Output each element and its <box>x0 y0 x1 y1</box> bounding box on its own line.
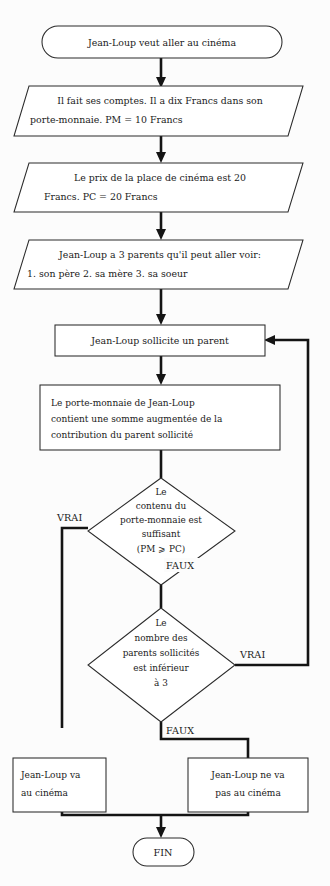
node-decision-1-line3: porte-monnaie est <box>120 515 202 525</box>
flowchart-svg: Jean-Loup veut aller au cinéma Il fait s… <box>0 0 330 886</box>
connector-io3-to-process1 <box>156 289 166 325</box>
connector-io1-to-io2 <box>156 136 166 163</box>
edge-label-vrai-1: VRAI <box>56 512 82 523</box>
node-io-3[interactable]: Jean-Loup a 3 parents qu'il peut aller v… <box>14 240 303 289</box>
connector-process1-to-process2 <box>156 356 166 385</box>
connector-decision1-true-to-outcome-yes <box>62 528 88 728</box>
edge-label-faux-1: FAUX <box>166 560 194 571</box>
edge-label-decision1-true: VRAI <box>55 510 91 524</box>
node-decision-2-line5: à 3 <box>154 678 168 688</box>
edge-label-decision1-false: FAUX <box>164 558 202 572</box>
node-decision-1[interactable]: Le contenu du porte-monnaie est suffisan… <box>88 478 235 585</box>
node-io-3-line2: 1. son père 2. sa mère 3. sa soeur <box>27 268 188 279</box>
connector-io2-to-io3 <box>156 212 166 240</box>
node-process-2[interactable]: Le porte-monnaie de Jean-Loup contient u… <box>40 385 280 450</box>
node-process-2-line3: contribution du parent sollicité <box>51 430 193 440</box>
node-process-2-line2: contient une somme augmentée de la <box>51 414 223 424</box>
node-io-2[interactable]: Le prix de la place de cinéma est 20 Fra… <box>14 163 303 212</box>
node-decision-1-line2: contenu du <box>136 501 187 511</box>
edge-label-decision2-false: FAUX <box>164 723 202 737</box>
node-io-2-line1: Le prix de la place de cinéma est 20 <box>74 172 246 183</box>
node-outcome-yes-line2: au cinéma <box>21 788 69 798</box>
edge-label-decision2-true: VRAI <box>238 647 276 661</box>
node-io-2-line2: Francs. PC = 20 Francs <box>44 191 158 202</box>
node-end-label: FIN <box>154 847 173 858</box>
node-io-1[interactable]: Il fait ses comptes. Il a dix Francs dan… <box>14 86 303 136</box>
node-start[interactable]: Jean-Loup veut aller au cinéma <box>42 26 282 58</box>
node-outcome-yes-line1: Jean-Loup va <box>20 770 81 780</box>
node-process-2-line1: Le porte-monnaie de Jean-Loup <box>51 398 195 408</box>
node-decision-2-line2: nombre des <box>135 633 188 643</box>
node-outcome-no[interactable]: Jean-Loup ne va pas au cinéma <box>188 758 308 812</box>
node-decision-2-line4: est inférieur <box>133 663 189 673</box>
node-decision-2-line3: parents sollicités <box>123 648 200 658</box>
node-decision-2[interactable]: Le nombre des parents sollicités est inf… <box>88 608 235 722</box>
node-process-1[interactable]: Jean-Loup sollicite un parent <box>55 325 265 356</box>
node-process-1-label: Jean-Loup sollicite un parent <box>90 335 229 346</box>
node-decision-1-line5: (PM ⩾ PC) <box>137 544 185 554</box>
node-decision-1-line1: Le <box>155 487 166 497</box>
node-decision-2-line1: Le <box>155 618 166 628</box>
node-start-label: Jean-Loup veut aller au cinéma <box>87 37 237 48</box>
connector-merge-to-end <box>156 815 166 838</box>
node-end[interactable]: FIN <box>133 838 194 866</box>
node-outcome-yes[interactable]: Jean-Loup va au cinéma <box>13 758 106 812</box>
node-decision-1-line4: suffisant <box>142 529 181 539</box>
connector-start-to-io1 <box>156 58 166 88</box>
node-outcome-no-line2: pas au cinéma <box>215 788 281 798</box>
edge-label-faux-2: FAUX <box>166 725 194 736</box>
node-outcome-no-line1: Jean-Loup ne va <box>210 770 285 780</box>
edge-label-vrai-2: VRAI <box>239 649 265 660</box>
flowchart-canvas: Jean-Loup veut aller au cinéma Il fait s… <box>0 0 330 886</box>
node-io-3-line1: Jean-Loup a 3 parents qu'il peut aller v… <box>58 249 261 260</box>
node-io-1-line2: porte-monnaie. PM = 10 Francs <box>30 114 183 125</box>
node-io-1-line1: Il fait ses comptes. Il a dix Francs dan… <box>57 95 263 106</box>
